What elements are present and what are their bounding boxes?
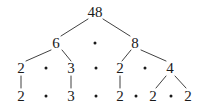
- edge-4-to-2-right: [175, 76, 186, 88]
- edge-6-to-2: [26, 50, 51, 61]
- tree-node: 2: [17, 89, 25, 104]
- tree-node: 4: [166, 61, 174, 76]
- multiplication-dot-icon: [95, 95, 98, 98]
- tree-node: 48: [88, 5, 103, 20]
- tree-node: 8: [131, 36, 139, 51]
- edge-48-to-6: [61, 19, 88, 36]
- multiplication-dot-icon: [144, 67, 147, 70]
- multiplication-dot-icon: [45, 95, 48, 98]
- tree-node: 2: [17, 61, 25, 76]
- tree-node: 2: [116, 89, 124, 104]
- tree-node: 2: [149, 89, 157, 104]
- multiplication-dot-icon: [170, 95, 173, 98]
- tree-node: 2: [184, 89, 192, 104]
- multiplication-dot-icon: [94, 42, 97, 45]
- tree-node: 6: [52, 36, 60, 51]
- multiplication-dot-icon: [45, 67, 48, 70]
- multiplication-dot-icon: [135, 95, 138, 98]
- tree-node: 3: [67, 89, 75, 104]
- multiplication-dot-icon: [95, 67, 98, 70]
- edge-4-to-2-left: [156, 76, 166, 88]
- tree-node: 2: [116, 61, 124, 76]
- tree-node: 3: [67, 61, 75, 76]
- edge-8-to-4: [141, 50, 166, 61]
- factor-tree-figure: 4868232423222: [0, 0, 206, 110]
- edge-48-to-8: [103, 19, 130, 36]
- tree-edges: [0, 0, 206, 110]
